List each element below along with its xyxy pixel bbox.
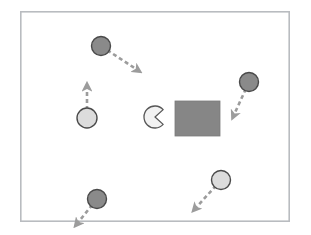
scene-canvas [0,0,311,235]
agent-1-body [92,37,111,56]
agent-5-body [88,190,107,209]
agent-4-body [212,171,231,190]
agent-2-body [77,108,97,128]
agent-3-body [240,73,259,92]
rectangular-obstacle [175,101,220,136]
simulation-scene: Multi-agent navigation simulation snapsh… [0,0,311,235]
